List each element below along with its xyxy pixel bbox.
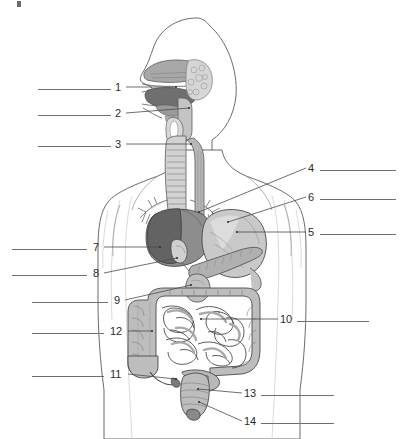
answer-line-6[interactable] [320, 199, 396, 200]
answer-line-11[interactable] [32, 376, 104, 377]
answer-line-4[interactable] [320, 170, 396, 171]
label-number-2: 2 [115, 108, 121, 119]
answer-line-7[interactable] [12, 249, 87, 250]
answer-line-9[interactable] [32, 302, 108, 303]
answer-line-10[interactable] [297, 321, 369, 322]
label-number-10: 10 [280, 314, 292, 325]
answer-line-1[interactable] [38, 89, 111, 90]
label-number-11: 11 [110, 369, 121, 380]
digestive-system-worksheet: 1234657891012111314 [0, 0, 402, 439]
answer-line-13[interactable] [261, 395, 334, 396]
label-number-12: 12 [110, 326, 122, 337]
label-number-8: 8 [93, 268, 99, 279]
answer-line-3[interactable] [38, 146, 111, 147]
label-number-7: 7 [93, 242, 99, 253]
label-number-5: 5 [308, 227, 314, 238]
label-number-6: 6 [308, 192, 314, 203]
trachea [165, 136, 186, 210]
label-number-9: 9 [114, 295, 120, 306]
anatomy-illustration [0, 0, 402, 439]
label-number-4: 4 [308, 163, 314, 174]
label-number-3: 3 [115, 139, 121, 150]
answer-line-12[interactable] [32, 333, 104, 334]
label-number-14: 14 [244, 416, 256, 427]
answer-line-14[interactable] [261, 423, 334, 424]
anus [187, 409, 201, 420]
label-number-13: 13 [244, 388, 256, 399]
answer-line-8[interactable] [12, 275, 87, 276]
answer-line-5[interactable] [320, 234, 396, 235]
answer-line-2[interactable] [38, 115, 111, 116]
label-number-1: 1 [115, 82, 121, 93]
